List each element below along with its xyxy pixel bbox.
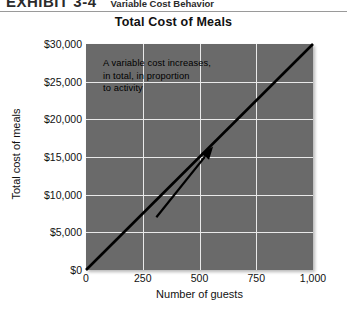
exhibit-label: EXHIBIT 3-4: [6, 0, 97, 10]
y-axis-tick-label: $5,000: [50, 226, 82, 238]
x-axis-title: Number of guests: [86, 288, 313, 300]
y-axis-title: Total cost of meals: [10, 74, 22, 234]
y-axis-tick-label: $25,000: [44, 76, 82, 88]
exhibit-figure: EXHIBIT 3-4Variable Cost Behavior Total …: [0, 0, 347, 323]
exhibit-header: EXHIBIT 3-4Variable Cost Behavior: [0, 0, 347, 11]
y-axis-tick-label: $0: [70, 264, 82, 276]
header-divider: [0, 11, 347, 12]
annotation-line: in total, in proportion: [103, 70, 211, 83]
x-axis-tick-label: 500: [191, 272, 209, 284]
plot-wrap: A variable cost increases,in total, in p…: [86, 44, 313, 270]
x-axis-tick-label: 1,000: [300, 272, 326, 284]
annotation-line: to activity: [103, 82, 211, 95]
x-axis-tick-labels: 02505007501,000: [86, 272, 313, 288]
y-axis-tick-label: $10,000: [44, 189, 82, 201]
y-axis-tick-label: $20,000: [44, 113, 82, 125]
x-axis-tick-label: 0: [83, 272, 89, 284]
exhibit-caption: Variable Cost Behavior: [111, 0, 214, 9]
x-axis-tick-label: 750: [247, 272, 265, 284]
annotation-line: A variable cost increases,: [103, 57, 211, 70]
y-axis-tick-label: $30,000: [44, 38, 82, 50]
plot-area: A variable cost increases,in total, in p…: [86, 44, 313, 270]
variable-cost-annotation: A variable cost increases,in total, in p…: [103, 57, 211, 95]
chart-title: Total Cost of Meals: [0, 15, 347, 29]
annotation-arrow-shaft: [156, 157, 205, 218]
y-axis-tick-label: $15,000: [44, 151, 82, 163]
x-axis-tick-label: 250: [134, 272, 152, 284]
